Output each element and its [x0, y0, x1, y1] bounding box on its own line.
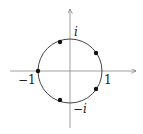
label-minus-one: −1: [18, 73, 36, 87]
root-point: [58, 98, 62, 102]
root-point: [94, 87, 98, 91]
unit-circle-diagram: 1 −1 i −i: [0, 0, 143, 134]
root-point: [94, 51, 98, 55]
root-point: [36, 69, 40, 73]
label-minus-i: −i: [73, 102, 87, 116]
label-i: i: [74, 25, 78, 39]
label-one: 1: [104, 73, 112, 87]
root-point: [58, 40, 62, 44]
